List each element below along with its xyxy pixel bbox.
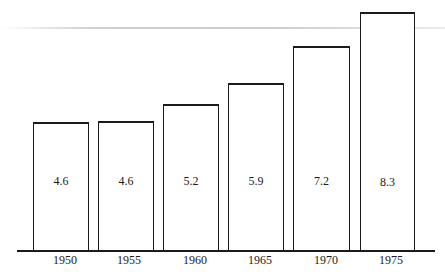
bar-value-label: 4.6 (34, 174, 88, 189)
bar-value-label: 4.6 (99, 174, 153, 189)
bar-value-label: 7.2 (294, 174, 349, 189)
x-tick-label-1955: 1955 (99, 253, 159, 268)
x-tick-label-1950: 1950 (35, 253, 95, 268)
x-axis-baseline (17, 250, 435, 252)
x-tick-label-1960: 1960 (165, 253, 225, 268)
bar-value-label: 5.9 (229, 174, 283, 189)
x-tick-label-1970: 1970 (296, 253, 356, 268)
bar-value-label: 8.3 (361, 175, 414, 190)
bar-1975: 8.3 (360, 12, 415, 251)
bar-1970: 7.2 (293, 46, 350, 251)
bar-value-label: 5.2 (164, 174, 218, 189)
x-tick-label-1975: 1975 (361, 253, 421, 268)
bar-1950: 4.6 (33, 122, 89, 251)
bar-1965: 5.9 (228, 83, 284, 251)
bar-1960: 5.2 (163, 104, 219, 251)
bar-1955: 4.6 (98, 121, 154, 251)
x-tick-label-1965: 1965 (230, 253, 290, 268)
